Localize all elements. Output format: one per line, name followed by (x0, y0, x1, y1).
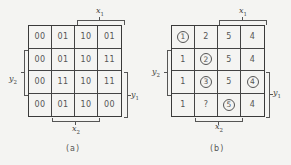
cell-b-2-1: 3 (195, 71, 218, 94)
x1-bracket-tick-b (242, 17, 243, 20)
cell-b-1-3: 4 (241, 49, 264, 72)
cell-a-3-3: 00 (98, 94, 121, 117)
y1-bracket-b (266, 72, 270, 118)
cell-a-2-2: 10 (75, 71, 98, 94)
y1-label-b: y1 (273, 88, 281, 99)
stable-state-circle: 5 (223, 99, 235, 111)
y2-label-a: y2 (9, 74, 17, 85)
caption-a: (a) (66, 144, 80, 153)
cell-a-2-3: 11 (98, 71, 121, 94)
cell-a-0-2: 10 (75, 26, 98, 49)
cell-a-3-2: 10 (75, 94, 98, 117)
cell-b-3-2: 5 (218, 94, 241, 117)
x2-bracket-a (52, 118, 100, 122)
y2-label-b: y2 (152, 67, 160, 78)
cell-a-1-0: 00 (29, 49, 52, 72)
cell-b-2-3: 4 (241, 71, 264, 94)
cell-a-0-3: 01 (98, 26, 121, 49)
cell-a-1-2: 10 (75, 49, 98, 72)
cell-a-0-1: 01 (52, 26, 75, 49)
x1-bracket-tick-a (99, 17, 100, 20)
x1-bracket-a (77, 20, 125, 25)
cell-b-3-0: 1 (172, 94, 195, 117)
caption-b: (b) (210, 144, 224, 153)
x1-bracket-b (219, 20, 267, 25)
x1-label-b: x1 (239, 6, 247, 17)
stable-state-circle: 3 (200, 76, 212, 88)
y2-bracket-b (167, 50, 171, 96)
cell-b-2-0: 1 (172, 71, 195, 94)
x1-label-a: x1 (96, 6, 104, 17)
cell-b-1-0: 1 (172, 49, 195, 72)
panel-a: 00 01 10 01 00 01 10 11 00 11 10 11 00 0… (0, 0, 145, 165)
y2-bracket-tick-b (164, 72, 167, 73)
stable-state-circle: 1 (177, 31, 189, 43)
cell-a-2-0: 00 (29, 71, 52, 94)
cell-a-3-1: 01 (52, 94, 75, 117)
cell-a-3-0: 00 (29, 94, 52, 117)
panel-b: 1 2 5 4 1 2 5 4 1 3 5 4 1 ? 5 4 x1 y2 y1… (145, 0, 290, 165)
cell-a-1-1: 01 (52, 49, 75, 72)
cell-b-0-2: 5 (218, 26, 241, 49)
cell-a-1-3: 11 (98, 49, 121, 72)
cell-b-3-1: ? (195, 94, 218, 117)
cell-b-0-3: 4 (241, 26, 264, 49)
y2-bracket-tick-a (21, 72, 24, 73)
cell-a-0-0: 00 (29, 26, 52, 49)
cell-b-1-2: 5 (218, 49, 241, 72)
cell-b-0-0: 1 (172, 26, 195, 49)
cell-b-3-3: 4 (241, 94, 264, 117)
x2-label-b: x2 (215, 122, 223, 133)
flow-table-b: 1 2 5 4 1 2 5 4 1 3 5 4 1 ? 5 4 (171, 25, 265, 117)
stable-state-circle: 4 (247, 76, 259, 88)
cell-a-2-1: 11 (52, 71, 75, 94)
stable-state-circle: 2 (200, 53, 212, 65)
cell-b-2-2: 5 (218, 71, 241, 94)
y1-label-a: y1 (131, 90, 139, 101)
cell-b-1-1: 2 (195, 49, 218, 72)
cell-b-0-1: 2 (195, 26, 218, 49)
karnaugh-map-a: 00 01 10 01 00 01 10 11 00 11 10 11 00 0… (28, 25, 122, 117)
y2-bracket-a (24, 50, 28, 96)
x2-label-a: x2 (72, 124, 80, 135)
